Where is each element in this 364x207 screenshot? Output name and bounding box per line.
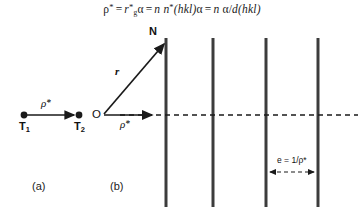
panel-b-caption: (b)	[110, 180, 123, 192]
panel-a-artwork	[21, 112, 83, 119]
panel-a-rho-star: *	[46, 97, 51, 107]
panel-a-label-t2: T2	[74, 120, 85, 134]
panel-b-rho-star: *	[125, 118, 130, 128]
panel-b-label-rho: ρ*	[120, 118, 130, 130]
panel-a-label-t1: T1	[19, 120, 30, 134]
panel-b-r-vector-arrow	[104, 44, 164, 114]
crystallography-figure: ρ*=r*gα=n n*(hkl)α=n α/d(hkl)	[0, 0, 364, 207]
panel-a-label-rho: ρ*	[41, 97, 51, 109]
panel-a-caption: (a)	[32, 180, 45, 192]
panel-b-label-n: N	[149, 25, 157, 37]
panel-b-spacing-label: e = 1/ρ*	[277, 155, 307, 165]
panel-a-t2-letter: T	[74, 120, 81, 132]
panel-a-t2-subscript: 2	[81, 125, 85, 134]
panel-a-point-t2	[76, 112, 83, 119]
panel-b-label-origin: O	[92, 108, 101, 120]
figure-artwork	[0, 0, 364, 207]
panel-a-t1-letter: T	[19, 120, 26, 132]
panel-b-lattice-planes	[166, 38, 318, 207]
panel-b-label-r: r	[115, 65, 119, 77]
panel-a-t1-subscript: 1	[26, 125, 30, 134]
